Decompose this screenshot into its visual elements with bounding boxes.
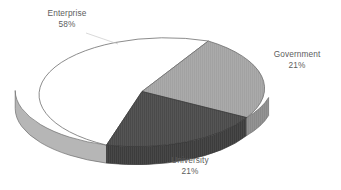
slice-label-government-value: 21% (258, 60, 336, 71)
slice-label-government-name: Government (258, 49, 336, 60)
slice-label-enterprise-value: 58% (17, 19, 117, 30)
slice-label-university: University 21% (140, 155, 240, 176)
pie-chart: Enterprise 58% Government 21% University… (0, 0, 341, 190)
slice-label-enterprise-name: Enterprise (17, 8, 117, 19)
slice-label-university-value: 21% (140, 166, 240, 177)
slice-label-enterprise: Enterprise 58% (17, 8, 117, 29)
slice-label-university-name: University (140, 155, 240, 166)
leader-line-enterprise (86, 33, 118, 44)
slice-label-government: Government 21% (258, 49, 336, 70)
